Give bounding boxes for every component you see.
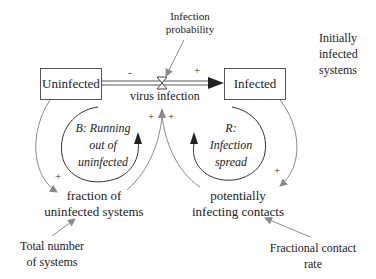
label-line: fraction of [44,188,144,204]
label-line: rate [258,256,368,272]
stock-infected[interactable]: Infected [224,68,286,100]
valve-icon [157,77,167,89]
polarity-plus: + [274,164,280,176]
label-line: Infection [203,137,259,154]
polarity-plus: + [55,170,61,182]
loop-balancing-label: B: Running out of uninfected [72,120,134,171]
label-line: systems [319,62,358,78]
variable-potentially-infecting: potentially infecting contacts [188,188,288,220]
label-line: out of [72,137,134,154]
polarity-plus: + [194,64,200,76]
label-line: infecting contacts [188,204,288,220]
loop-reinforcing-label: R: Infection spread [203,120,259,171]
label-line: infected [319,46,358,62]
label-line: of systems [15,254,89,270]
label-line: probability [155,23,225,36]
flow-virus-infection-label: virus infection [130,89,194,104]
label-line: B: Running [72,120,134,137]
variable-infection-probability: Infection probability [155,10,225,36]
polarity-plus: + [168,110,174,122]
variable-fractional-contact: Fractional contact rate [258,240,368,272]
label-line: Total number [15,238,89,254]
stock-infected-label: Infected [234,76,277,92]
variable-total-number: Total number of systems [15,238,89,270]
label-line: spread [203,154,259,171]
label-line: R: [203,120,259,137]
label-line: Initially [319,30,358,46]
stock-uninfected-label: Uninfected [42,76,100,92]
polarity-plus: + [148,110,154,122]
label-line: potentially [188,188,288,204]
polarity-minus: - [128,66,132,78]
variable-fraction-uninfected: fraction of uninfected systems [44,188,144,220]
stock-flow-diagram: Uninfected Infected virus infection Infe… [0,0,376,279]
label-line: Fractional contact [258,240,368,256]
label-line: Infection [155,10,225,23]
stock-uninfected[interactable]: Uninfected [40,68,102,100]
label-line: uninfected systems [44,204,144,220]
variable-initially-infected: Initially infected systems [319,30,358,78]
label-line: uninfected [72,154,134,171]
